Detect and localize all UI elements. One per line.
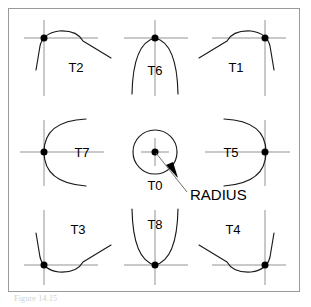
tool-label-t6: T6	[147, 63, 162, 78]
tool-label-t5: T5	[223, 145, 238, 160]
reference-dot-t8	[152, 262, 159, 269]
tool-label-t1: T1	[228, 60, 243, 75]
tool-label-t4: T4	[225, 222, 240, 237]
tool-label-t3: T3	[70, 222, 85, 237]
figure-root: T2 T6 T1 T7 T5 T3 T8 T4 T0 RADIUS Figure…	[0, 0, 311, 307]
tool-label-t0: T0	[147, 178, 162, 193]
reference-dot-t2	[41, 35, 48, 42]
reference-dot-t6	[152, 35, 159, 42]
figure-caption: Figure 14.15	[14, 294, 57, 303]
tool-label-layer: T2 T6 T1 T7 T5 T3 T8 T4 T0 RADIUS	[68, 60, 246, 237]
tool-label-t7: T7	[74, 145, 89, 160]
tool-orientation-diagram: T2 T6 T1 T7 T5 T3 T8 T4 T0 RADIUS	[0, 0, 311, 307]
reference-dot-t3	[41, 262, 48, 269]
reference-dot-t1	[262, 35, 269, 42]
tool-label-t2: T2	[68, 60, 83, 75]
radius-annotation-label: RADIUS	[190, 186, 247, 203]
reference-dot-t4	[262, 262, 269, 269]
reference-dot-t7	[41, 149, 48, 156]
tool-label-t8: T8	[147, 217, 162, 232]
reference-dot-t5	[262, 149, 269, 156]
